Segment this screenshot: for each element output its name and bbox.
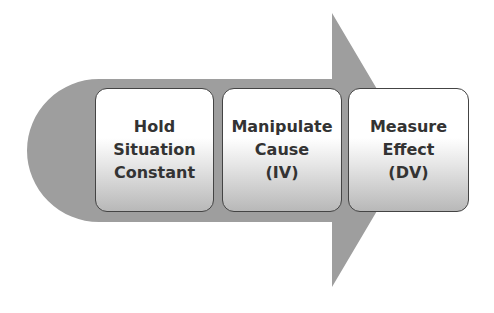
step-hold-situation-constant: Hold Situation Constant [95, 88, 214, 212]
step-1-line-3: Constant [114, 161, 195, 184]
step-manipulate-cause: Manipulate Cause (IV) [222, 88, 342, 212]
step-2-line-1: Manipulate [231, 115, 332, 138]
step-3-line-3: (DV) [388, 161, 428, 184]
step-3-line-1: Measure [370, 115, 447, 138]
step-measure-effect: Measure Effect (DV) [348, 88, 469, 212]
step-1-line-2: Situation [113, 138, 195, 161]
step-2-line-3: (IV) [266, 161, 299, 184]
step-2-line-2: Cause [255, 138, 309, 161]
step-1-line-1: Hold [134, 115, 175, 138]
step-3-line-2: Effect [383, 138, 435, 161]
